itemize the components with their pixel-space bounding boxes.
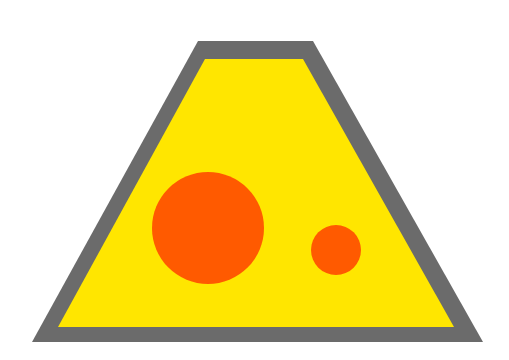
image-canvas (0, 0, 509, 360)
small-orange-circle-icon (311, 225, 361, 275)
large-orange-circle-icon (152, 172, 264, 284)
trapezoid-sign-graphic (0, 0, 509, 360)
